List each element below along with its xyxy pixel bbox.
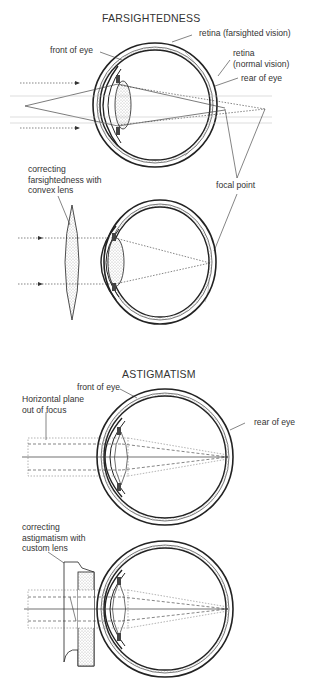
label-astig-correcting-line3: custom lens	[22, 543, 86, 554]
label-astig-correcting-line1: correcting	[22, 522, 86, 533]
label-astig-rear-of-eye: rear of eye	[254, 417, 295, 428]
corrected-farsighted-eye	[18, 196, 216, 324]
astigmatism-title: ASTIGMATISM	[122, 368, 196, 380]
label-retina-normal-line1: retina	[233, 48, 289, 59]
label-retina-normal-line2: (normal vision)	[233, 59, 289, 70]
label-astig-correcting-line2: astigmatism with	[22, 533, 86, 544]
label-astig-front-of-eye: front of eye	[77, 382, 120, 393]
label-horizontal-line2: out of focus	[22, 405, 84, 416]
label-correcting-line1: correcting	[28, 164, 102, 175]
label-retina-farsighted: retina (farsighted vision)	[199, 28, 291, 39]
label-correcting-astigmatism: correcting astigmatism with custom lens	[22, 522, 86, 554]
label-correcting-farsightedness: correcting farsightedness with convex le…	[28, 164, 102, 196]
label-focal-point: focal point	[216, 180, 255, 191]
label-front-of-eye: front of eye	[50, 45, 93, 56]
label-correcting-line2: farsightedness with	[28, 175, 102, 186]
corrected-astigmatic-eye	[24, 541, 233, 677]
eye-diagrams	[0, 0, 318, 690]
farsightedness-title: FARSIGHTEDNESS	[102, 12, 200, 24]
label-correcting-line3: convex lens	[28, 185, 102, 196]
label-retina-normal: retina (normal vision)	[233, 48, 289, 69]
label-rear-of-eye: rear of eye	[241, 73, 282, 84]
label-horizontal-plane: Horizontal plane out of focus	[22, 394, 84, 415]
label-horizontal-line1: Horizontal plane	[22, 394, 84, 405]
